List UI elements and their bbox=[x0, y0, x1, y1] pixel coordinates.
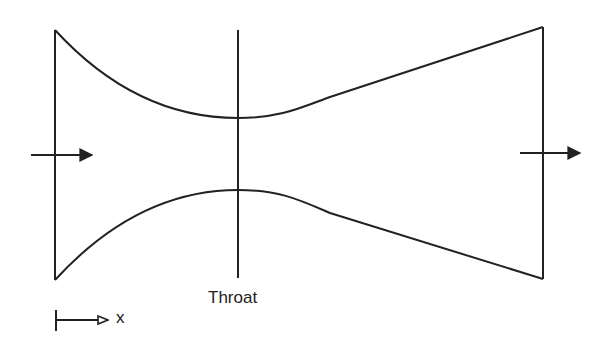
nozzle-svg bbox=[0, 0, 606, 341]
throat-label: Throat bbox=[208, 288, 257, 308]
axis-label: x bbox=[116, 308, 125, 328]
upper-wall-contour bbox=[55, 27, 543, 118]
lower-wall-contour bbox=[55, 190, 543, 280]
nozzle-diagram: Throat x bbox=[0, 0, 606, 341]
